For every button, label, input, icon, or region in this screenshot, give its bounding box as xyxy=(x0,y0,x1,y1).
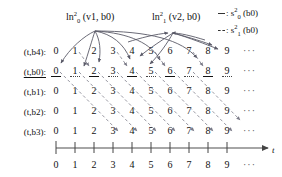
row-label-b0: (t,b0): xyxy=(0,68,46,77)
row-ellipsis-b1: ··· xyxy=(243,86,256,96)
axis-tick-label-5: 5 xyxy=(146,160,156,170)
cell-b0-5: 5 xyxy=(146,66,156,77)
cell-b0-0: 0 xyxy=(51,66,61,77)
legend-args-1: (b0) xyxy=(243,25,258,35)
cell-b0-7: 7 xyxy=(184,66,194,77)
axis-label-t: t xyxy=(272,146,275,155)
fn-right-sup: 2 xyxy=(160,10,163,17)
fn-right-name: ln xyxy=(152,11,160,22)
axis-tick-label-9: 9 xyxy=(222,160,232,170)
axis-ellipsis: ··· xyxy=(243,160,256,170)
cell-b3-0: 0 xyxy=(51,126,61,136)
axis-tick-label-4: 4 xyxy=(127,160,137,170)
row-ellipsis-b3: ··· xyxy=(243,126,256,136)
cell-b1-0: 0 xyxy=(51,86,61,96)
cell-b2-3: 3 xyxy=(108,106,118,116)
legend-sep-0: : xyxy=(226,8,229,18)
cell-b1-6: 6 xyxy=(165,86,175,96)
row-ellipsis-b4: ··· xyxy=(243,46,256,56)
axis-ticks xyxy=(56,141,227,154)
legend-dash-solid-icon xyxy=(218,13,225,14)
cell-b2-7: 7 xyxy=(184,106,194,116)
cell-b2-1: 1 xyxy=(70,106,80,116)
cell-b4-0: 0 xyxy=(51,46,61,56)
cell-b1-7: 7 xyxy=(184,86,194,96)
cell-b1-2: 2 xyxy=(89,86,99,96)
legend-item-s0: : s20 (b0) xyxy=(218,9,258,18)
cell-b0-2: 2 xyxy=(89,66,99,77)
arrows-converging xyxy=(128,33,205,42)
row-label-b2: (t,b2): xyxy=(0,108,46,117)
cell-b3-4: 4 xyxy=(127,126,137,136)
fn-right-sub: 1 xyxy=(163,17,166,24)
dashed-lines-s1 xyxy=(60,72,240,131)
fn-left-args: (v1, b0) xyxy=(83,11,115,22)
fn-left-sup: 2 xyxy=(74,10,77,17)
cell-b2-8: 8 xyxy=(203,106,213,116)
cell-b3-9: 9 xyxy=(222,126,232,136)
axis-tick-label-0: 0 xyxy=(51,160,61,170)
legend-args-0: (b0) xyxy=(243,8,258,18)
axis-tick-label-1: 1 xyxy=(70,160,80,170)
fn-left-sub: 0 xyxy=(77,17,80,24)
cell-b4-1: 1 xyxy=(70,46,80,56)
cell-b0-4: 4 xyxy=(127,66,137,77)
cell-b4-2: 2 xyxy=(89,46,99,56)
cell-b0-1: 1 xyxy=(70,66,80,77)
cell-b1-5: 5 xyxy=(146,86,156,96)
row-label-b3: (t,b3): xyxy=(0,128,46,137)
cell-b4-6: 6 xyxy=(165,46,175,56)
legend-dash-dashed-icon xyxy=(218,30,225,31)
cell-b1-9: 9 xyxy=(222,86,232,96)
function-label-ln1: ln21 (v2, b0) xyxy=(152,12,200,22)
time-axis xyxy=(56,141,268,154)
axis-tick-label-3: 3 xyxy=(108,160,118,170)
legend-item-s1: : s21 (b0) xyxy=(218,26,258,35)
legend-sep-1: : xyxy=(226,25,229,35)
row-ellipsis-b0: ··· xyxy=(243,66,256,76)
cell-b0-6: 6 xyxy=(165,66,175,77)
cell-b0-3: 3 xyxy=(108,66,118,77)
cell-b1-8: 8 xyxy=(203,86,213,96)
cell-b3-6: 6 xyxy=(165,126,175,136)
cell-b1-3: 3 xyxy=(108,86,118,96)
axis-tick-label-6: 6 xyxy=(165,160,175,170)
row-label-b4: (t,b4): xyxy=(0,48,46,57)
fn-left-name: ln xyxy=(66,11,74,22)
cell-b4-5: 5 xyxy=(146,46,156,56)
function-label-ln0: ln20 (v1, b0) xyxy=(66,12,114,22)
cell-b4-8: 8 xyxy=(203,46,213,56)
axis-tick-label-8: 8 xyxy=(203,160,213,170)
legend-sub-0: 0 xyxy=(238,13,241,20)
cell-b4-4: 4 xyxy=(127,46,137,56)
cell-b1-1: 1 xyxy=(70,86,80,96)
row-ellipsis-b2: ··· xyxy=(243,106,256,116)
axis-tick-label-2: 2 xyxy=(89,160,99,170)
cell-b2-4: 4 xyxy=(127,106,137,116)
legend-sub-1: 1 xyxy=(238,30,241,37)
figure-canvas: ln20 (v1, b0) ln21 (v2, b0) : s20 (b0) :… xyxy=(0,0,282,177)
cell-b3-3: 3 xyxy=(108,126,118,136)
cell-b2-2: 2 xyxy=(89,106,99,116)
cell-b4-9: 9 xyxy=(222,46,232,56)
cell-b3-2: 2 xyxy=(89,126,99,136)
cell-b3-1: 1 xyxy=(70,126,80,136)
cell-b2-9: 9 xyxy=(222,106,232,116)
cell-b0-8: 8 xyxy=(203,66,213,77)
axis-tick-label-7: 7 xyxy=(184,160,194,170)
cell-b3-8: 8 xyxy=(203,126,213,136)
cell-b0-9: 9 xyxy=(222,66,232,77)
cell-b2-6: 6 xyxy=(165,106,175,116)
row-label-b1: (t,b1): xyxy=(0,88,46,97)
cell-b4-7: 7 xyxy=(184,46,194,56)
cell-b2-5: 5 xyxy=(146,106,156,116)
cell-b3-7: 7 xyxy=(184,126,194,136)
cell-b3-5: 5 xyxy=(146,126,156,136)
cell-b1-4: 4 xyxy=(127,86,137,96)
cell-b4-3: 3 xyxy=(108,46,118,56)
cell-b2-0: 0 xyxy=(51,106,61,116)
fn-right-args: (v2, b0) xyxy=(169,11,201,22)
